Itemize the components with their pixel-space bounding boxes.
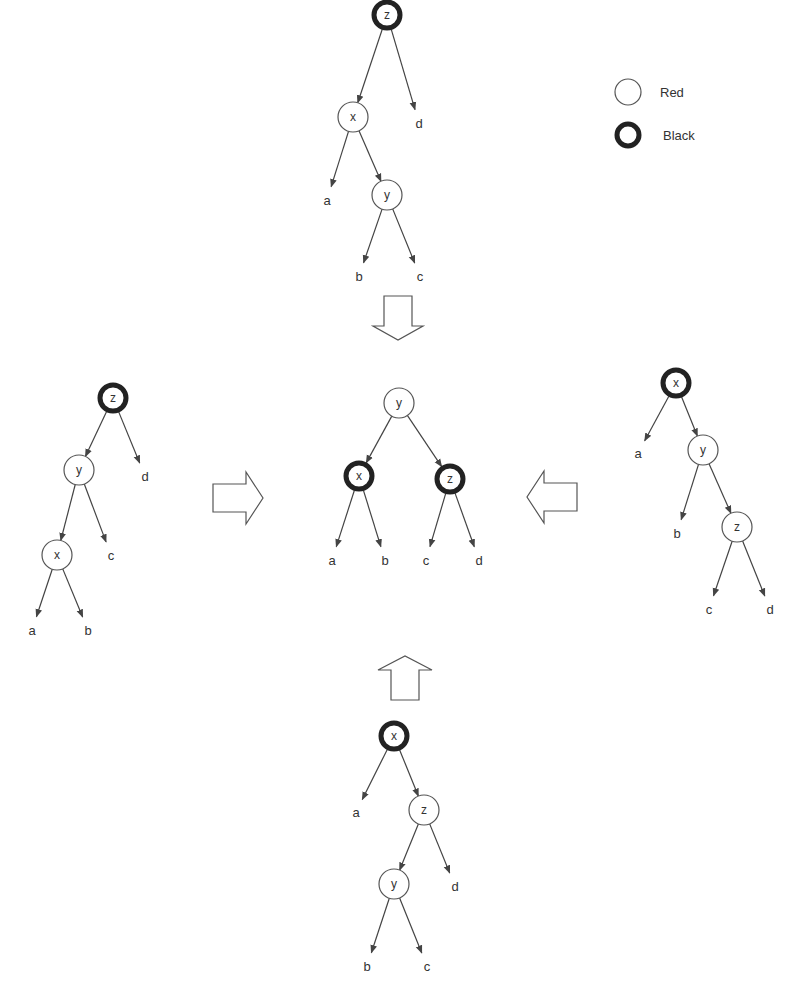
subtree-label-left-c: c xyxy=(108,548,115,563)
subtree-label-bottom-d: d xyxy=(451,879,458,894)
subtree-label-center-d: d xyxy=(475,553,482,568)
node-label: y xyxy=(700,443,706,457)
tree-node-center-x: x xyxy=(346,463,372,489)
subtree-label-top-a: a xyxy=(323,193,331,208)
tree-edge xyxy=(63,569,83,617)
tree-node-top-x: x xyxy=(338,102,368,132)
tree-node-top-y: y xyxy=(372,180,402,210)
tree-edge xyxy=(359,131,381,181)
tree-edge xyxy=(455,493,474,547)
tree-node-center-z: z xyxy=(437,466,463,492)
red-black-tree-rotation-diagram: Red Black zxyzyxyxzxyzxzy adbcdcababcdab… xyxy=(0,0,802,995)
legend-label-red: Red xyxy=(660,85,684,100)
tree-edge xyxy=(363,490,380,546)
tree-edge xyxy=(371,898,389,952)
tree-edge xyxy=(119,412,140,463)
tree-edge xyxy=(743,541,765,596)
tree-edge xyxy=(645,396,669,441)
subtree-label-bottom-b: b xyxy=(363,959,370,974)
node-label: y xyxy=(76,463,82,477)
subtree-label-center-b: b xyxy=(381,553,388,568)
legend-item-black: Black xyxy=(617,124,695,146)
tree-edge xyxy=(400,750,419,796)
tree-node-center-y: y xyxy=(384,388,414,418)
tree-edge xyxy=(407,415,441,466)
tree-edge xyxy=(358,29,383,103)
subtree-label-right-d: d xyxy=(766,602,773,617)
node-label: x xyxy=(391,729,397,743)
tree-edge xyxy=(681,464,698,519)
tree-edge xyxy=(36,569,52,616)
subtree-label-bottom-c: c xyxy=(424,959,431,974)
subtree-label-top-d: d xyxy=(415,116,422,131)
tree-edge xyxy=(85,412,106,457)
legend-label-black: Black xyxy=(663,128,695,143)
tree-node-bottom-y: y xyxy=(379,869,409,899)
edges-layer xyxy=(36,29,764,953)
block-arrow-down-icon xyxy=(373,296,423,340)
node-label: x xyxy=(350,110,356,124)
tree-edge xyxy=(430,493,446,546)
subtree-label-center-a: a xyxy=(328,553,336,568)
red-node-swatch-icon xyxy=(615,79,641,105)
black-node-swatch-icon xyxy=(617,124,639,146)
subtree-label-left-d: d xyxy=(141,469,148,484)
node-label: x xyxy=(54,548,60,562)
legend: Red Black xyxy=(615,79,695,146)
tree-edge xyxy=(336,490,354,546)
node-label: z xyxy=(384,8,390,22)
subtree-label-left-a: a xyxy=(28,623,36,638)
node-label: y xyxy=(384,188,390,202)
tree-edge xyxy=(366,416,392,463)
node-label: x xyxy=(356,469,362,483)
subtree-label-top-b: b xyxy=(355,269,362,284)
tree-node-top-z: z xyxy=(374,2,400,28)
nodes-layer: zxyzyxyxzxyzxzy xyxy=(42,2,752,899)
tree-edge xyxy=(391,29,415,109)
subtree-label-right-b: b xyxy=(673,526,680,541)
tree-node-right-z: z xyxy=(722,512,752,542)
tree-node-bottom-z: z xyxy=(409,795,439,825)
node-label: y xyxy=(396,396,402,410)
tree-node-left-z: z xyxy=(100,385,126,411)
legend-item-red: Red xyxy=(615,79,684,105)
subtree-label-bottom-a: a xyxy=(352,805,360,820)
tree-edge xyxy=(430,824,450,873)
tree-node-bottom-x: x xyxy=(381,723,407,749)
subtree-label-left-b: b xyxy=(84,623,91,638)
block-arrow-right-icon xyxy=(213,472,263,524)
tree-edge xyxy=(709,464,731,514)
node-label: z xyxy=(421,803,427,817)
block-arrow-left-icon xyxy=(527,471,577,523)
leaves-layer: adbcdcababcdabcdadbc xyxy=(28,116,773,974)
tree-edge xyxy=(393,209,415,263)
tree-node-left-x: x xyxy=(42,540,72,570)
node-label: x xyxy=(673,376,679,390)
subtree-label-right-c: c xyxy=(706,602,713,617)
tree-edge xyxy=(682,397,698,436)
tree-edge xyxy=(362,749,387,799)
node-label: y xyxy=(391,877,397,891)
subtree-label-right-a: a xyxy=(634,446,642,461)
subtree-label-center-c: c xyxy=(423,553,430,568)
tree-node-right-x: x xyxy=(663,370,689,396)
tree-edge xyxy=(364,209,383,263)
tree-edge xyxy=(714,541,733,596)
tree-edge xyxy=(84,484,106,542)
node-label: z xyxy=(447,472,453,486)
tree-edge xyxy=(331,131,348,186)
subtree-label-top-c: c xyxy=(417,269,424,284)
block-arrow-up-icon xyxy=(378,656,432,700)
tree-edge xyxy=(400,824,419,870)
tree-node-right-y: y xyxy=(688,435,718,465)
tree-edge xyxy=(400,898,422,953)
tree-edge xyxy=(61,485,75,541)
node-label: z xyxy=(734,520,740,534)
node-label: z xyxy=(110,391,116,405)
transform-arrows-layer xyxy=(213,296,577,700)
tree-node-left-y: y xyxy=(64,455,94,485)
